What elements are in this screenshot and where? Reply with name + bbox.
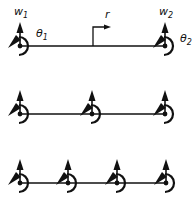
node-dof-icon — [154, 159, 174, 192]
label-r: r — [105, 8, 111, 21]
label-w2: w2 — [159, 5, 173, 20]
label-w1: w1 — [14, 5, 28, 20]
node-dof-icon — [153, 22, 173, 55]
local-coordinate-r-icon — [93, 25, 111, 47]
rows-layer — [8, 22, 174, 192]
node-dof-icon — [8, 90, 28, 123]
node-dof-icon — [8, 22, 28, 55]
beam-element-diagram: w1 w2 θ1 θ2 r — [0, 0, 193, 205]
node-dof-icon — [105, 159, 125, 192]
node-dof-icon — [56, 159, 76, 192]
node-dof-icon — [80, 90, 100, 123]
beam-row-three-elements — [8, 159, 174, 192]
label-theta2: θ2 — [180, 32, 192, 47]
node-dof-icon — [8, 159, 28, 192]
beam-row-two-elements — [8, 90, 173, 123]
beam-row-single-element — [8, 22, 173, 55]
node-dof-icon — [153, 90, 173, 123]
label-theta1: θ1 — [36, 27, 48, 42]
